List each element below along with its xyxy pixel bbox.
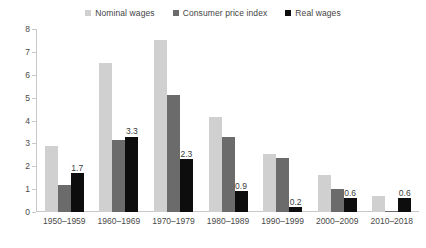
bar-real-wages: 1.7 [71,173,84,212]
bar-consumer-price-index [385,211,398,212]
bar-consumer-price-index [112,140,125,212]
bar-group: 1.7 [37,29,92,212]
x-axis-category-label: 1960–1969 [92,216,147,226]
y-axis-tick-mark [32,52,36,53]
y-axis-tick-mark [32,189,36,190]
y-axis-tick-label: 4 [25,116,30,126]
y-axis-tick-mark [32,166,36,167]
y-axis-tick-label: 7 [25,47,30,57]
bar-consumer-price-index [331,189,344,212]
y-axis-tick-mark [32,143,36,144]
y-axis-tick-label: 3 [25,138,30,148]
y-axis-tick-label: 6 [25,70,30,80]
x-axis-category-labels: 1950–19591960–19691970–19791980–19891990… [37,216,419,226]
bar-consumer-price-index [276,158,289,212]
legend-item: Consumer price index [173,8,268,18]
bar-nominal-wages [318,175,331,212]
bar-value-label: 0.6 [344,189,356,198]
y-axis-tick-mark [32,75,36,76]
x-axis-category-label: 1950–1959 [37,216,92,226]
bar-nominal-wages [209,117,222,212]
bar-consumer-price-index [58,185,71,212]
legend-swatch-icon [285,10,291,16]
x-axis-category-label: 2010–2018 [364,216,419,226]
y-axis-tick-label: 8 [25,24,30,34]
x-axis-category-label: 1990–1999 [255,216,310,226]
x-axis-category-label: 1980–1989 [201,216,256,226]
y-axis-tick-mark [32,98,36,99]
chart-legend: Nominal wagesConsumer price indexReal wa… [0,8,426,18]
bar-real-wages: 0.6 [344,198,357,212]
bar-group: 0.9 [201,29,256,212]
bar-value-label: 1.7 [71,164,83,173]
bar-value-label: 0.2 [290,198,302,207]
y-axis-tick-mark [32,29,36,30]
bar-group: 3.3 [92,29,147,212]
legend-swatch-icon [85,10,91,16]
bar-nominal-wages [154,40,167,212]
bar-group: 0.2 [255,29,310,212]
plot-area: 876543210 1.73.32.30.90.20.60.6 [36,29,419,212]
bar-group: 0.6 [310,29,365,212]
legend-item-label: Consumer price index [183,8,268,18]
bar-value-label: 3.3 [126,127,138,136]
x-axis-category-label: 2000–2009 [310,216,365,226]
legend-item-label: Real wages [295,8,340,18]
bar-value-label: 0.6 [399,189,411,198]
bar-real-wages: 0.6 [398,198,411,212]
bar-group: 2.3 [146,29,201,212]
bar-chart: Nominal wagesConsumer price indexReal wa… [0,0,426,248]
bar-nominal-wages [372,196,385,212]
bar-real-wages: 0.9 [235,191,248,212]
bar-consumer-price-index [222,137,235,212]
legend-swatch-icon [173,10,179,16]
bar-nominal-wages [263,154,276,212]
bar-real-wages: 0.2 [289,207,302,212]
y-axis-tick-mark [32,121,36,122]
bar-real-wages: 2.3 [180,159,193,212]
bar-value-label: 2.3 [181,150,193,159]
bar-value-label: 0.9 [235,182,247,191]
bar-groups: 1.73.32.30.90.20.60.6 [37,29,419,212]
y-axis-tick-label: 0 [25,207,30,217]
legend-item: Nominal wages [85,8,154,18]
y-axis-tick-mark [32,212,36,213]
y-axis-tick-label: 5 [25,93,30,103]
x-axis-category-label: 1970–1979 [146,216,201,226]
bar-nominal-wages [99,63,112,212]
bar-consumer-price-index [167,95,180,212]
legend-item-label: Nominal wages [95,8,154,18]
y-axis-tick-label: 2 [25,161,30,171]
bar-group: 0.6 [364,29,419,212]
y-axis-tick-label: 1 [25,184,30,194]
bar-nominal-wages [45,146,58,212]
legend-item: Real wages [285,8,340,18]
bar-real-wages: 3.3 [125,137,138,212]
